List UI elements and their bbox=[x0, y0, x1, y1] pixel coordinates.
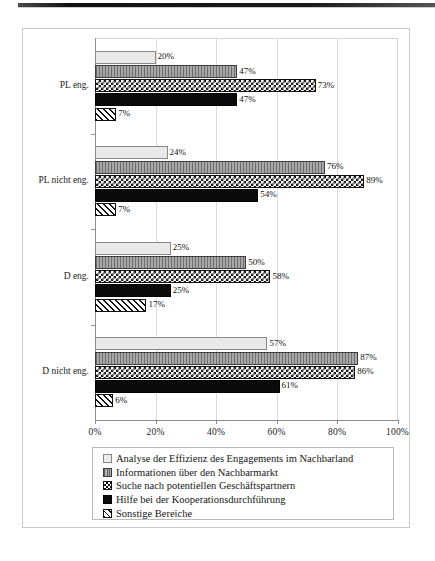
legend-item-2[interactable]: Suche nach potentiellen Geschäftspartner… bbox=[103, 479, 388, 493]
value-label-3-1: 87% bbox=[360, 351, 377, 364]
bar-3-4 bbox=[95, 394, 113, 407]
page-top-scan-artifact-shadow bbox=[18, 7, 435, 8]
legend-label-4: Sonstige Bereiche bbox=[116, 508, 192, 519]
bar-1-4 bbox=[95, 203, 116, 216]
bar-3-1 bbox=[95, 352, 358, 365]
value-label-0-2: 73% bbox=[318, 79, 335, 92]
bar-3-3 bbox=[95, 380, 280, 393]
page-canvas: 0%20%40%60%80%100% PL eng.PL nicht eng.D… bbox=[0, 0, 435, 561]
value-label-1-2: 89% bbox=[366, 174, 383, 187]
value-label-2-4: 17% bbox=[148, 298, 165, 311]
value-label-1-1: 76% bbox=[327, 160, 344, 173]
value-label-2-0: 25% bbox=[173, 241, 190, 254]
bar-2-4 bbox=[95, 299, 146, 312]
legend-swatch-diagonal-hatch-icon bbox=[103, 509, 112, 518]
x-tick-100% bbox=[398, 420, 399, 424]
x-tick-40% bbox=[216, 420, 217, 424]
x-tick-label-20%: 20% bbox=[133, 427, 179, 437]
legend-swatch-vertical-stripes-icon bbox=[103, 468, 112, 477]
value-label-2-3: 25% bbox=[173, 284, 190, 297]
value-label-0-0: 20% bbox=[158, 50, 175, 63]
x-tick-label-40%: 40% bbox=[193, 427, 239, 437]
y-tick-1 bbox=[91, 134, 95, 135]
value-label-3-2: 86% bbox=[357, 365, 374, 378]
value-label-0-4: 7% bbox=[118, 107, 130, 120]
bar-0-3 bbox=[95, 93, 237, 106]
x-tick-label-60%: 60% bbox=[254, 427, 300, 437]
bar-0-4 bbox=[95, 108, 116, 121]
category-label-wrap-2: D eng. bbox=[0, 271, 89, 281]
category-label-2: D eng. bbox=[0, 271, 89, 281]
plot-top-border bbox=[95, 38, 398, 39]
bar-0-1 bbox=[95, 65, 237, 78]
x-tick-0% bbox=[95, 420, 96, 424]
legend-label-3: Hilfe bei der Kooperationsdurchführung bbox=[116, 494, 285, 505]
legend-item-1[interactable]: Informationen über den Nachbarmarkt bbox=[103, 466, 388, 480]
category-label-1: PL nicht eng. bbox=[0, 175, 89, 185]
legend-label-1: Informationen über den Nachbarmarkt bbox=[116, 467, 278, 478]
legend-item-3[interactable]: Hilfe bei der Kooperationsdurchführung bbox=[103, 493, 388, 507]
y-tick-2 bbox=[91, 229, 95, 230]
bar-2-1 bbox=[95, 256, 246, 269]
value-label-0-3: 47% bbox=[239, 93, 256, 106]
x-tick-label-100%: 100% bbox=[375, 427, 421, 437]
category-label-wrap-1: PL nicht eng. bbox=[0, 175, 89, 185]
value-label-1-4: 7% bbox=[118, 203, 130, 216]
x-tick-20% bbox=[156, 420, 157, 424]
bar-1-1 bbox=[95, 161, 325, 174]
category-label-0: PL eng. bbox=[0, 80, 89, 90]
bar-1-3 bbox=[95, 189, 258, 202]
legend-swatch-light-dotted-icon bbox=[103, 454, 112, 463]
y-tick-3 bbox=[91, 325, 95, 326]
legend-label-2: Suche nach potentiellen Geschäftspartner… bbox=[116, 480, 295, 491]
value-label-3-3: 61% bbox=[282, 379, 299, 392]
x-axis-line bbox=[95, 420, 398, 421]
x-tick-label-80%: 80% bbox=[314, 427, 360, 437]
value-label-1-0: 24% bbox=[170, 146, 187, 159]
category-label-3: D nicht eng. bbox=[0, 366, 89, 376]
category-label-wrap-0: PL eng. bbox=[0, 80, 89, 90]
legend-item-0[interactable]: Analyse der Effizienz des Engagements im… bbox=[103, 452, 388, 466]
bar-0-0 bbox=[95, 51, 156, 64]
legend-label-0: Analyse der Effizienz des Engagements im… bbox=[116, 453, 353, 464]
bar-1-0 bbox=[95, 146, 168, 159]
value-label-2-2: 58% bbox=[272, 270, 289, 283]
bar-1-2 bbox=[95, 175, 364, 188]
bar-2-3 bbox=[95, 284, 171, 297]
x-tick-80% bbox=[337, 420, 338, 424]
x-tick-label-0%: 0% bbox=[72, 427, 118, 437]
legend-swatch-checkerboard-icon bbox=[103, 481, 112, 490]
legend-swatch-solid-black-icon bbox=[103, 495, 112, 504]
bar-2-2 bbox=[95, 270, 270, 283]
plot-right-border bbox=[397, 38, 398, 420]
value-label-3-0: 57% bbox=[269, 337, 286, 350]
value-label-0-1: 47% bbox=[239, 65, 256, 78]
legend-item-4[interactable]: Sonstige Bereiche bbox=[103, 506, 388, 520]
bar-3-0 bbox=[95, 337, 267, 350]
chart-legend: Analyse der Effizienz des Engagements im… bbox=[92, 447, 394, 520]
x-tick-60% bbox=[277, 420, 278, 424]
bar-2-0 bbox=[95, 242, 171, 255]
category-label-wrap-3: D nicht eng. bbox=[0, 366, 89, 376]
value-label-2-1: 50% bbox=[248, 256, 265, 269]
bar-0-2 bbox=[95, 79, 316, 92]
bar-3-2 bbox=[95, 366, 355, 379]
value-label-1-3: 54% bbox=[260, 188, 277, 201]
value-label-3-4: 6% bbox=[115, 394, 127, 407]
